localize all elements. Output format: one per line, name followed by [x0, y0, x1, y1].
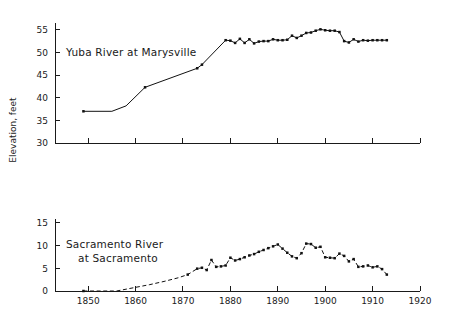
data-point-marker	[300, 34, 303, 37]
data-point-marker	[324, 256, 327, 259]
data-point-marker	[201, 63, 204, 66]
data-point-marker	[234, 42, 237, 45]
data-point-marker	[386, 39, 389, 42]
data-point-marker	[314, 29, 317, 32]
data-point-marker	[262, 40, 265, 43]
data-point-marker	[338, 31, 341, 33]
data-point-marker	[362, 39, 365, 42]
data-point-marker	[343, 40, 346, 43]
data-point-marker	[196, 267, 199, 270]
data-point-marker	[352, 258, 355, 261]
data-point-marker	[376, 265, 379, 268]
data-point-marker	[196, 67, 199, 70]
data-point-marker	[205, 269, 208, 272]
data-point-marker	[220, 265, 223, 268]
data-point-marker	[277, 243, 280, 246]
data-point-marker	[201, 267, 204, 270]
data-point-marker	[333, 257, 336, 260]
data-point-marker	[224, 39, 227, 42]
y-tick-label: 35	[37, 116, 48, 126]
chart-panel-sacramento: 05101518501860187018801890190019101920Sa…	[37, 218, 432, 306]
data-point-marker	[291, 255, 294, 258]
data-series-line	[83, 244, 386, 291]
figure-container: 303540455055Yuba River at Marysville0510…	[0, 0, 449, 317]
data-point-marker	[248, 254, 251, 257]
data-point-marker	[267, 247, 270, 250]
data-point-marker	[314, 246, 317, 249]
series-title-yuba: Yuba River at Marysville	[65, 46, 196, 58]
data-point-marker	[272, 245, 275, 248]
data-point-marker	[362, 265, 365, 268]
data-point-marker	[234, 259, 237, 262]
data-point-marker	[296, 257, 299, 260]
data-point-marker	[376, 39, 379, 42]
data-point-marker	[319, 246, 322, 249]
data-point-marker	[352, 38, 355, 41]
data-point-marker	[229, 256, 232, 259]
data-point-marker	[367, 264, 370, 267]
data-point-marker	[371, 266, 374, 269]
data-point-marker	[296, 37, 299, 40]
data-point-marker	[248, 38, 251, 41]
y-tick-label: 10	[37, 241, 49, 251]
data-point-marker	[357, 266, 360, 269]
data-point-marker	[82, 110, 85, 113]
data-point-marker	[300, 252, 303, 255]
data-point-marker	[210, 259, 213, 262]
series-title-sacramento-line1: Sacramento River	[66, 238, 164, 250]
y-tick-label: 0	[42, 286, 48, 296]
data-point-marker	[305, 32, 308, 35]
x-tick-label: 1880	[219, 296, 242, 306]
data-point-marker	[310, 243, 313, 246]
data-point-marker	[329, 29, 332, 32]
chart-svg: 303540455055Yuba River at Marysville0510…	[0, 0, 449, 317]
data-point-marker	[186, 273, 189, 276]
data-point-marker	[253, 42, 256, 45]
data-point-marker	[229, 39, 232, 42]
x-tick-label: 1850	[77, 296, 100, 306]
data-point-marker	[281, 247, 284, 250]
data-point-marker	[239, 258, 242, 261]
data-point-marker	[291, 34, 294, 37]
data-series-line	[83, 29, 386, 111]
data-point-marker	[381, 39, 384, 42]
data-point-marker	[371, 39, 374, 42]
data-point-marker	[338, 252, 341, 255]
data-point-marker	[310, 31, 313, 34]
series-title-sacramento-line2: at Sacramento	[78, 252, 158, 264]
data-point-marker	[386, 273, 389, 276]
data-point-marker	[367, 39, 370, 42]
data-point-marker	[267, 40, 270, 43]
y-tick-label: 15	[37, 218, 48, 228]
x-tick-label: 1890	[266, 296, 289, 306]
data-point-marker	[286, 39, 289, 42]
chart-panel-yuba: 303540455055Yuba River at Marysville	[37, 23, 420, 148]
data-point-marker	[258, 40, 261, 43]
data-point-marker	[243, 256, 246, 259]
x-tick-label: 1870	[172, 296, 195, 306]
y-tick-label: 5	[42, 264, 48, 274]
data-point-marker	[272, 38, 275, 41]
data-point-marker	[305, 242, 308, 245]
data-point-marker	[329, 256, 332, 259]
data-point-marker	[215, 266, 218, 269]
data-point-marker	[286, 251, 289, 254]
data-point-marker	[319, 28, 322, 31]
data-point-marker	[258, 251, 261, 254]
data-point-marker	[82, 290, 85, 293]
data-point-marker	[357, 40, 360, 43]
data-point-marker	[324, 29, 327, 32]
data-point-marker	[262, 249, 265, 252]
x-tick-label: 1860	[124, 296, 147, 306]
data-point-marker	[144, 86, 147, 89]
x-tick-label: 1900	[314, 296, 337, 306]
data-point-marker	[348, 41, 351, 44]
y-tick-label: 45	[37, 70, 48, 80]
data-point-marker	[277, 39, 280, 42]
x-tick-label: 1910	[361, 296, 384, 306]
data-point-marker	[239, 38, 242, 41]
data-point-marker	[281, 39, 284, 42]
y-axis-title: Elevation, feet	[8, 97, 18, 163]
data-point-marker	[224, 264, 227, 267]
data-point-marker	[253, 253, 256, 256]
